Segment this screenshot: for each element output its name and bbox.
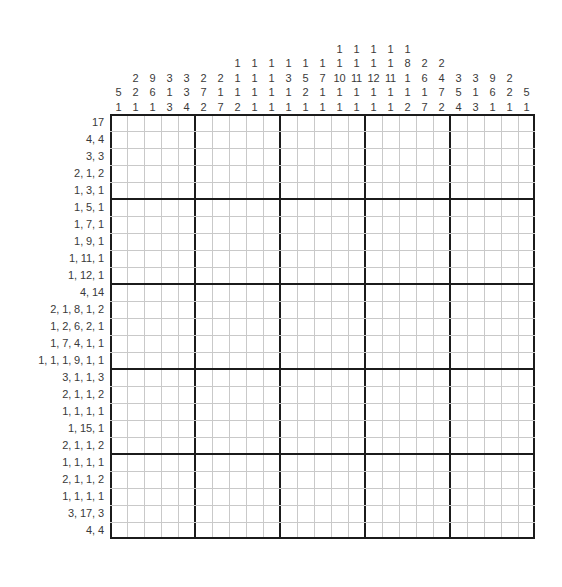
grid-cell[interactable]	[502, 166, 518, 182]
grid-cell[interactable]	[111, 285, 127, 301]
grid-cell[interactable]	[298, 285, 314, 301]
grid-cell[interactable]	[230, 455, 246, 471]
grid-cell[interactable]	[145, 149, 161, 165]
grid-cell[interactable]	[485, 387, 501, 403]
grid-cell[interactable]	[366, 455, 382, 471]
grid-cell[interactable]	[247, 387, 263, 403]
grid-cell[interactable]	[366, 319, 382, 335]
grid-cell[interactable]	[213, 302, 229, 318]
grid-cell[interactable]	[400, 421, 416, 437]
grid-cell[interactable]	[400, 353, 416, 369]
grid-cell[interactable]	[468, 353, 484, 369]
grid-cell[interactable]	[247, 319, 263, 335]
grid-cell[interactable]	[400, 506, 416, 522]
grid-cell[interactable]	[451, 336, 467, 352]
grid-cell[interactable]	[417, 166, 433, 182]
grid-cell[interactable]	[332, 115, 348, 131]
grid-cell[interactable]	[400, 132, 416, 148]
grid-cell[interactable]	[264, 523, 280, 539]
grid-cell[interactable]	[332, 370, 348, 386]
grid-cell[interactable]	[281, 166, 297, 182]
grid-cell[interactable]	[332, 166, 348, 182]
grid-cell[interactable]	[366, 132, 382, 148]
grid-cell[interactable]	[298, 455, 314, 471]
grid-cell[interactable]	[315, 285, 331, 301]
grid-cell[interactable]	[179, 115, 195, 131]
grid-cell[interactable]	[400, 234, 416, 250]
grid-cell[interactable]	[196, 200, 212, 216]
grid-cell[interactable]	[213, 217, 229, 233]
grid-cell[interactable]	[434, 370, 450, 386]
grid-cell[interactable]	[196, 132, 212, 148]
grid-cell[interactable]	[128, 166, 144, 182]
grid-cell[interactable]	[468, 523, 484, 539]
grid-cell[interactable]	[519, 302, 535, 318]
grid-cell[interactable]	[383, 353, 399, 369]
grid-cell[interactable]	[366, 472, 382, 488]
grid-cell[interactable]	[383, 166, 399, 182]
grid-cell[interactable]	[332, 132, 348, 148]
grid-cell[interactable]	[366, 404, 382, 420]
grid-cell[interactable]	[247, 489, 263, 505]
grid-cell[interactable]	[400, 455, 416, 471]
grid-cell[interactable]	[230, 132, 246, 148]
grid-cell[interactable]	[400, 472, 416, 488]
grid-cell[interactable]	[400, 183, 416, 199]
grid-cell[interactable]	[315, 183, 331, 199]
grid-cell[interactable]	[332, 506, 348, 522]
grid-cell[interactable]	[349, 370, 365, 386]
grid-cell[interactable]	[281, 370, 297, 386]
grid-cell[interactable]	[230, 319, 246, 335]
grid-cell[interactable]	[230, 404, 246, 420]
grid-cell[interactable]	[332, 302, 348, 318]
grid-cell[interactable]	[485, 438, 501, 454]
grid-cell[interactable]	[213, 183, 229, 199]
grid-cell[interactable]	[400, 370, 416, 386]
grid-cell[interactable]	[315, 149, 331, 165]
grid-cell[interactable]	[247, 285, 263, 301]
grid-cell[interactable]	[366, 353, 382, 369]
grid-cell[interactable]	[128, 115, 144, 131]
grid-cell[interactable]	[417, 200, 433, 216]
grid-cell[interactable]	[400, 319, 416, 335]
grid-cell[interactable]	[145, 523, 161, 539]
grid-cell[interactable]	[145, 404, 161, 420]
grid-cell[interactable]	[451, 506, 467, 522]
grid-cell[interactable]	[383, 251, 399, 267]
grid-cell[interactable]	[230, 200, 246, 216]
grid-cell[interactable]	[179, 472, 195, 488]
grid-cell[interactable]	[247, 166, 263, 182]
grid-cell[interactable]	[451, 387, 467, 403]
grid-cell[interactable]	[315, 302, 331, 318]
grid-cell[interactable]	[400, 200, 416, 216]
grid-cell[interactable]	[434, 183, 450, 199]
grid-cell[interactable]	[213, 404, 229, 420]
grid-cell[interactable]	[128, 387, 144, 403]
grid-cell[interactable]	[247, 234, 263, 250]
grid-cell[interactable]	[434, 472, 450, 488]
grid-cell[interactable]	[264, 387, 280, 403]
grid-cell[interactable]	[298, 268, 314, 284]
grid-cell[interactable]	[485, 370, 501, 386]
grid-cell[interactable]	[502, 285, 518, 301]
grid-cell[interactable]	[179, 268, 195, 284]
grid-cell[interactable]	[468, 472, 484, 488]
grid-cell[interactable]	[349, 268, 365, 284]
grid-cell[interactable]	[349, 523, 365, 539]
grid-cell[interactable]	[145, 319, 161, 335]
grid-cell[interactable]	[230, 115, 246, 131]
grid-cell[interactable]	[315, 421, 331, 437]
grid-cell[interactable]	[298, 217, 314, 233]
grid-cell[interactable]	[145, 455, 161, 471]
grid-cell[interactable]	[111, 217, 127, 233]
grid-cell[interactable]	[485, 421, 501, 437]
grid-cell[interactable]	[298, 387, 314, 403]
grid-cell[interactable]	[281, 200, 297, 216]
grid-cell[interactable]	[179, 421, 195, 437]
grid-cell[interactable]	[230, 183, 246, 199]
grid-cell[interactable]	[366, 200, 382, 216]
grid-cell[interactable]	[451, 217, 467, 233]
grid-cell[interactable]	[162, 183, 178, 199]
grid-cell[interactable]	[281, 387, 297, 403]
grid-cell[interactable]	[145, 506, 161, 522]
